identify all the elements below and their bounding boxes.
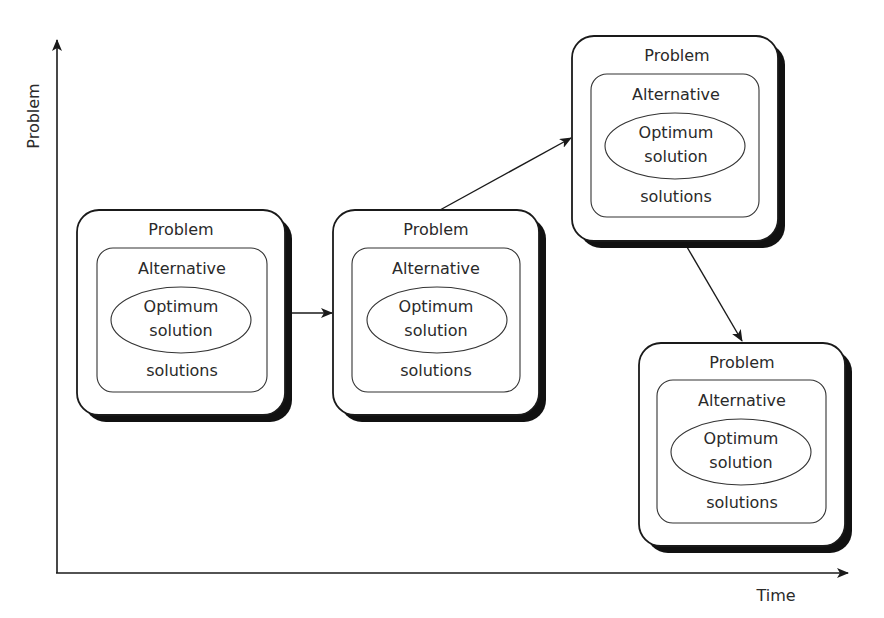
arrow-box2-to-box3	[440, 138, 571, 210]
solutions-label: solutions	[400, 361, 472, 380]
problem-box-4: Problem Alternative Optimum solution sol…	[639, 343, 852, 553]
y-axis-label: Problem	[24, 83, 43, 148]
solutions-label: solutions	[706, 493, 778, 512]
optimum-label-line2: solution	[149, 321, 212, 340]
problem-label: Problem	[403, 220, 468, 239]
optimum-label-line2: solution	[709, 453, 772, 472]
solutions-label: solutions	[146, 361, 218, 380]
alternative-label: Alternative	[698, 391, 786, 410]
optimum-label-line1: Optimum	[144, 297, 219, 316]
problem-label: Problem	[644, 46, 709, 65]
x-axis-label: Time	[755, 586, 795, 605]
problem-box-3: Problem Alternative Optimum solution sol…	[572, 36, 785, 248]
alternative-label: Alternative	[392, 259, 480, 278]
problem-box-1: Problem Alternative Optimum solution sol…	[77, 210, 292, 422]
diagram-canvas: Problem Time Problem Alternative Optimum…	[0, 0, 884, 618]
optimum-label-line1: Optimum	[399, 297, 474, 316]
problem-label: Problem	[709, 353, 774, 372]
optimum-label-line1: Optimum	[704, 429, 779, 448]
optimum-label-line2: solution	[404, 321, 467, 340]
solutions-label: solutions	[640, 187, 712, 206]
problem-box-2: Problem Alternative Optimum solution sol…	[333, 210, 546, 422]
arrow-box3-to-box4	[687, 247, 742, 341]
alternative-label: Alternative	[138, 259, 226, 278]
problem-label: Problem	[148, 220, 213, 239]
alternative-label: Alternative	[632, 85, 720, 104]
optimum-label-line2: solution	[644, 147, 707, 166]
optimum-label-line1: Optimum	[639, 123, 714, 142]
